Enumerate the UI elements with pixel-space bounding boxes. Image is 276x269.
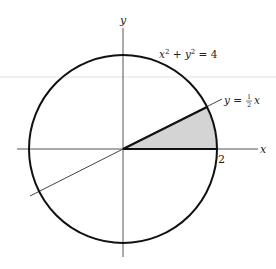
line-eq-suffix: x (254, 94, 260, 106)
x-tick-2: 2 (218, 153, 225, 166)
line-eq-frac-num: 1 (247, 93, 251, 101)
line-equation: y = 1 2 x (223, 93, 260, 109)
x-axis-label: x (260, 143, 267, 156)
line-eq-prefix: y = (223, 94, 242, 106)
diagram-canvas: y x 2 x2 + y2 = 4 y = 1 2 x (0, 0, 276, 269)
circle-sector-diagram: y x 2 x2 + y2 = 4 y = 1 2 x (0, 0, 276, 269)
y-axis-label: y (119, 14, 127, 27)
circle-equation: x2 + y2 = 4 (159, 48, 218, 60)
svg-text:x2 + y2 = 4: x2 + y2 = 4 (159, 48, 218, 60)
line-eq-frac-den: 2 (247, 101, 251, 109)
